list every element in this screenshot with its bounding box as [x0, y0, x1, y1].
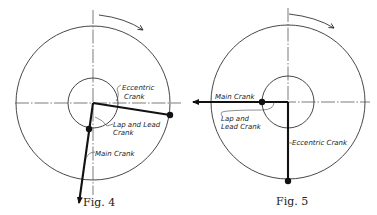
label-lap-lead-crank: Crank [113, 129, 134, 137]
label-main-crank: Main Crank [95, 150, 135, 158]
crank-diagrams: Eccentric Crank Lap and Lead Crank Main … [0, 0, 377, 215]
label-eccentric-crank: Crank [124, 93, 145, 101]
lap-lead-crank-pin [259, 99, 265, 105]
figure-5: Main Crank Lap and Lead Crank Eccentric … [193, 8, 370, 208]
eccentric-crank-pin [167, 112, 173, 118]
label-main-crank: Main Crank [215, 93, 255, 101]
figure-4: Eccentric Crank Lap and Lead Crank Main … [15, 10, 181, 209]
eccentric-crank [93, 103, 170, 115]
label-eccentric: Eccentric [122, 84, 154, 92]
figure-caption: Fig. 4 [83, 196, 115, 209]
eccentric-leader [117, 85, 121, 89]
lap-lead-crank-pin [86, 126, 92, 132]
label-lap-and: Lap and [221, 115, 250, 123]
main-crank-leader [86, 152, 95, 158]
rotation-arrow-icon [99, 15, 143, 30]
lap-lead-leader [221, 102, 274, 116]
figure-caption: Fig. 5 [276, 195, 308, 208]
rotation-arrow-icon [289, 14, 334, 28]
label-lead-crank: Lead Crank [221, 123, 262, 131]
eccentric-crank-pin [285, 178, 291, 184]
label-eccentric-crank: Eccentric Crank [292, 139, 348, 147]
label-lap-lead: Lap and Lead [113, 121, 161, 129]
